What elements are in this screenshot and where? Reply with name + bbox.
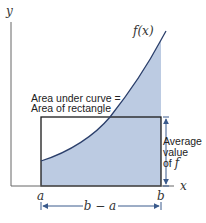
average-value-f-symbol: f: [174, 156, 182, 170]
interval-right-label: b: [157, 189, 165, 203]
annotation-line-2: Area of rectangle: [31, 102, 111, 114]
interval-left-label: a: [37, 189, 44, 203]
average-value-of-text: of: [163, 157, 175, 169]
x-axis-label: x: [180, 179, 187, 193]
average-value-diagram: y x f(x) a b b − a Area under curve = Ar…: [0, 0, 206, 223]
average-value-label-3: of f: [163, 156, 182, 170]
y-axis-label: y: [5, 4, 13, 18]
curve-label: f(x): [132, 24, 154, 38]
interval-width-label: b − a: [84, 199, 117, 213]
